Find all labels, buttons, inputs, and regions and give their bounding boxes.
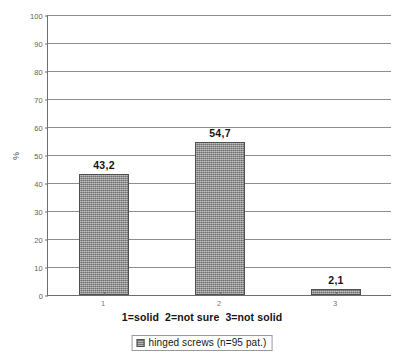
xtick-label-2: 2 (199, 299, 239, 308)
chart-legend: hinged screws (n=95 pat.) (132, 335, 273, 351)
hatched-square-icon (137, 339, 145, 347)
ytick-label-100: 100 (30, 12, 43, 21)
gridline-0: 0 (48, 295, 391, 296)
bar-rect-2[interactable] (195, 142, 245, 295)
bar-value-label-3: 2,1 (305, 274, 367, 286)
xtick-label-1: 1 (83, 299, 123, 308)
ytick-mark-70 (45, 100, 48, 101)
ytick-mark-50 (45, 156, 48, 157)
ytick-mark-20 (45, 240, 48, 241)
xtick-mark-2 (220, 292, 221, 295)
bar-chart-figure: % 100 90 80 70 60 50 40 (0, 0, 404, 358)
plot-area: 100 90 80 70 60 50 40 30 (47, 15, 390, 296)
y-axis-title: % (4, 146, 28, 166)
legend-series-label: hinged screws (n=95 pat.) (149, 337, 267, 348)
ytick-mark-30 (45, 212, 48, 213)
ytick-mark-10 (45, 268, 48, 269)
ytick-label-90: 90 (34, 40, 43, 49)
xtick-label-3: 3 (315, 299, 355, 308)
gridline-90: 90 (48, 43, 391, 44)
ytick-label-70: 70 (34, 96, 43, 105)
ytick-mark-90 (45, 44, 48, 45)
ytick-mark-100 (45, 16, 48, 17)
bar-value-label-2: 54,7 (189, 127, 251, 139)
ytick-label-10: 10 (34, 264, 43, 273)
ytick-label-60: 60 (34, 124, 43, 133)
ytick-label-30: 30 (34, 208, 43, 217)
bar-rect-1[interactable] (79, 174, 129, 295)
x-axis-caption: 1=solid 2=not sure 3=not solid (0, 311, 404, 323)
ytick-label-0: 0 (39, 292, 43, 301)
ytick-mark-0 (45, 296, 48, 297)
gridline-70: 70 (48, 99, 391, 100)
ytick-mark-80 (45, 72, 48, 73)
ytick-label-20: 20 (34, 236, 43, 245)
ytick-label-40: 40 (34, 180, 43, 189)
gridline-80: 80 (48, 71, 391, 72)
ytick-label-50: 50 (34, 152, 43, 161)
gridline-100: 100 (48, 15, 391, 16)
ytick-label-80: 80 (34, 68, 43, 77)
ytick-mark-60 (45, 128, 48, 129)
bar-value-label-1: 43,2 (73, 159, 135, 171)
xtick-mark-3 (336, 292, 337, 295)
ytick-mark-40 (45, 184, 48, 185)
xtick-mark-1 (104, 292, 105, 295)
